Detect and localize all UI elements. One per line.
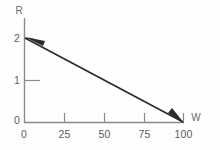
x-tick-label-25: 25 xyxy=(58,128,70,140)
y-tick-label-2: 2 xyxy=(14,32,20,44)
y-axis-title: R xyxy=(15,5,22,16)
chart-figure: R W 2 1 0 0 25 50 75 100 xyxy=(0,0,220,150)
y-tick-label-0: 0 xyxy=(14,114,20,126)
x-tick-label-50: 50 xyxy=(98,128,110,140)
plot-canvas: R W 2 1 0 0 25 50 75 100 xyxy=(0,0,220,150)
left-arrowhead-icon xyxy=(25,37,45,46)
y-tick-label-1: 1 xyxy=(14,74,20,86)
x-axis-title: W xyxy=(191,112,201,123)
constraint-line xyxy=(25,38,183,122)
x-tick-label-75: 75 xyxy=(138,128,150,140)
x-tick-label-0: 0 xyxy=(21,128,27,140)
x-tick-label-100: 100 xyxy=(174,128,192,140)
